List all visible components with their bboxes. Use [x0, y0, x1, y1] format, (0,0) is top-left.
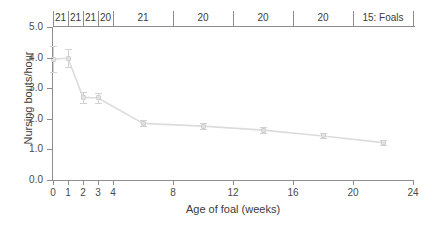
- sample-size-label-6: 20: [233, 12, 293, 23]
- x-tick: [113, 180, 114, 185]
- error-bar-cap-lower: [65, 67, 72, 68]
- sample-size-label-0: 21: [53, 12, 68, 23]
- x-tick-label: 8: [163, 187, 183, 198]
- x-tick: [353, 180, 354, 185]
- x-tick: [98, 180, 99, 185]
- error-bar-cap-upper: [80, 92, 87, 93]
- x-tick-label: 20: [343, 187, 363, 198]
- error-bar-cap-upper: [65, 49, 72, 50]
- data-point: [96, 95, 101, 100]
- sample-size-label-5: 20: [173, 12, 233, 23]
- error-bar-cap-lower: [140, 126, 147, 127]
- error-bar-cap-upper: [95, 93, 102, 94]
- nursing-bouts-chart: Nursing bouts/hour Age of foal (weeks) 0…: [0, 0, 435, 233]
- error-bar-cap-lower: [80, 103, 87, 104]
- error-bar-cap-lower: [200, 129, 207, 130]
- y-tick-label: 5.0: [13, 21, 43, 32]
- sample-size-label-3: 20: [98, 12, 113, 23]
- x-tick: [233, 180, 234, 185]
- sample-size-label-8: 15: Foals: [353, 12, 413, 23]
- error-bar-cap-upper: [50, 46, 57, 47]
- data-point: [381, 140, 386, 145]
- data-point: [201, 124, 206, 129]
- y-tick: [47, 58, 53, 59]
- y-tick: [47, 119, 53, 120]
- y-tick-label: 3.0: [13, 82, 43, 93]
- y-tick: [47, 88, 53, 89]
- data-point: [81, 95, 86, 100]
- x-tick-label: 16: [283, 187, 303, 198]
- error-bar-cap-lower: [380, 145, 387, 146]
- x-tick-label: 12: [223, 187, 243, 198]
- data-point: [66, 56, 71, 61]
- x-tick: [53, 180, 54, 185]
- sample-size-label-4: 21: [113, 12, 173, 23]
- y-tick-label: 0.0: [13, 174, 43, 185]
- x-tick: [173, 180, 174, 185]
- data-point: [261, 128, 266, 133]
- x-tick: [413, 180, 414, 185]
- data-point: [141, 121, 146, 126]
- error-bar-cap-lower: [320, 138, 327, 139]
- y-tick-label: 1.0: [13, 143, 43, 154]
- x-tick: [293, 180, 294, 185]
- x-tick-label: 4: [103, 187, 123, 198]
- y-tick: [47, 27, 53, 28]
- y-tick-label: 4.0: [13, 52, 43, 63]
- x-tick-label: 24: [403, 187, 423, 198]
- y-tick-label: 2.0: [13, 113, 43, 124]
- x-tick: [68, 180, 69, 185]
- data-point: [321, 133, 326, 138]
- x-axis-label: Age of foal (weeks): [53, 203, 413, 215]
- error-bar-cap-lower: [260, 133, 267, 134]
- sample-size-label-7: 20: [293, 12, 353, 23]
- sample-size-label-1: 21: [68, 12, 83, 23]
- sample-size-divider: [413, 11, 414, 26]
- x-tick: [83, 180, 84, 185]
- error-bar-cap-lower: [95, 103, 102, 104]
- error-bar-cap-lower: [50, 72, 57, 73]
- plot-area: [53, 27, 413, 180]
- series-polyline: [53, 27, 413, 180]
- y-tick: [47, 149, 53, 150]
- sample-size-label-2: 21: [83, 12, 98, 23]
